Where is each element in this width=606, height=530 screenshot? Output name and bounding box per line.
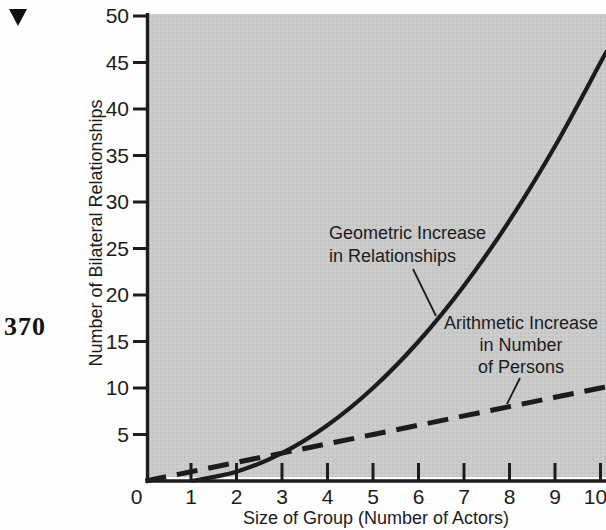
x-tick-label: 3 [276,485,288,508]
x-tick-label: 6 [413,485,425,508]
y-tick-label: 10 [106,376,129,399]
x-tick-label: 9 [549,485,561,508]
y-tick-label: 50 [106,4,129,27]
x-tick-label: 2 [231,485,243,508]
annotation-geometric-curve: Geometric Increase in Relationships [329,222,486,268]
x-tick-label: 5 [367,485,379,508]
x-tick-label: 4 [322,485,334,508]
y-tick-label: 15 [106,330,129,353]
x-tick-label: 0 [131,485,143,508]
down-triangle-icon [9,9,27,26]
page-number: 370 [4,312,48,342]
annotation-line: Arithmetic Increase [435,312,606,334]
x-tick-label: 1 [185,485,197,508]
y-axis-title: Number of Bilateral Relationships [86,73,108,393]
annotation-line: in Relationships [329,245,486,268]
y-tick-label: 5 [117,423,129,446]
textbook-figure: 5101520253035404550012345678910 370 Numb… [0,0,606,530]
annotation-line: of Persons [435,356,606,378]
x-tick-label: 7 [458,485,470,508]
y-tick-label: 25 [106,237,129,260]
x-axis-title: Size of Group (Number of Actors) [216,508,536,529]
x-tick-label: 8 [504,485,516,508]
y-tick-label: 35 [106,144,129,167]
y-tick-label: 30 [106,190,129,213]
annotation-line: in Number [435,334,606,356]
annotation-arithmetic-line: Arithmetic Increase in Number of Persons [435,312,606,378]
y-tick-label: 45 [106,51,129,74]
y-tick-label: 20 [106,283,129,306]
x-tick-label: 10 [584,485,606,508]
y-tick-label: 40 [106,97,129,120]
annotation-line: Geometric Increase [329,222,486,245]
